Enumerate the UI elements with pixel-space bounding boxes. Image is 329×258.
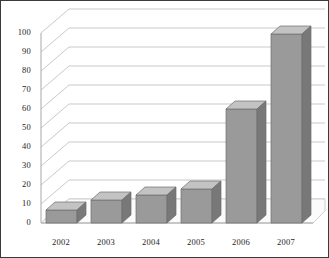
- chart-frame: 100 90 80 70 60 50 40 30 20 10 0 2002 20…: [0, 0, 329, 258]
- bar-2004: [136, 187, 176, 223]
- y-tick-0: 0: [7, 217, 31, 227]
- bar-2003: [91, 192, 131, 223]
- bar-2007: [271, 26, 311, 223]
- y-tick-50: 50: [7, 122, 31, 132]
- y-tick-40: 40: [7, 141, 31, 151]
- y-tick-80: 80: [7, 65, 31, 75]
- y-tick-30: 30: [7, 160, 31, 170]
- y-tick-70: 70: [7, 84, 31, 94]
- y-tick-100: 100: [7, 27, 31, 37]
- x-tick-2006: 2006: [219, 237, 263, 247]
- y-tick-60: 60: [7, 103, 31, 113]
- bar-chart-plot-area: 100 90 80 70 60 50 40 30 20 10 0 2002 20…: [1, 1, 329, 258]
- x-tick-2005: 2005: [174, 237, 218, 247]
- x-tick-2004: 2004: [129, 237, 173, 247]
- x-tick-2003: 2003: [84, 237, 128, 247]
- bar-2002: [46, 202, 86, 223]
- y-tick-20: 20: [7, 179, 31, 189]
- y-tick-90: 90: [7, 46, 31, 56]
- y-tick-10: 10: [7, 198, 31, 208]
- x-tick-2007: 2007: [264, 237, 308, 247]
- bar-chart-svg: [1, 1, 329, 258]
- bar-2005: [181, 181, 221, 223]
- bar-2006: [226, 101, 266, 223]
- x-tick-2002: 2002: [39, 237, 83, 247]
